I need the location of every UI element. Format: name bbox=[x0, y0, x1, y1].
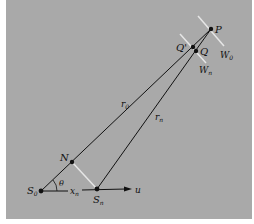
label-n: N bbox=[59, 152, 70, 163]
ray-r0 bbox=[41, 29, 211, 191]
point-s0 bbox=[39, 189, 44, 194]
label-q: Q bbox=[200, 46, 208, 57]
label-s0: S0 bbox=[27, 185, 38, 197]
perpendicular-n-sn bbox=[72, 162, 97, 189]
label-w0: W0 bbox=[220, 50, 233, 61]
ray-rn bbox=[97, 29, 211, 189]
arrow-u-icon bbox=[124, 187, 132, 192]
theta-arc bbox=[53, 180, 57, 191]
label-xn: xn bbox=[70, 186, 79, 197]
point-n bbox=[70, 160, 74, 164]
label-r0: r0 bbox=[121, 99, 129, 110]
baseline-right bbox=[82, 189, 126, 190]
label-wn: Wn bbox=[199, 65, 212, 76]
point-q-prime bbox=[191, 45, 195, 49]
point-sn bbox=[95, 187, 100, 192]
label-theta: θ bbox=[59, 179, 64, 188]
label-p: P bbox=[214, 24, 222, 35]
label-sn: Sn bbox=[93, 194, 104, 206]
point-q bbox=[194, 49, 198, 53]
point-p bbox=[209, 27, 213, 31]
label-u: u bbox=[135, 185, 141, 195]
geometry-diagram: P Q' Q W0 Wn r0 rn N θ S0 xn Sn u bbox=[0, 0, 254, 224]
label-rn: rn bbox=[155, 112, 163, 123]
label-q-prime: Q' bbox=[176, 42, 187, 53]
